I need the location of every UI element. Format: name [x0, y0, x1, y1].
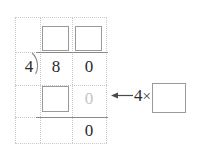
worksheet-canvas: 4 8 0 0 0 4×: [0, 0, 198, 159]
partial-product-faint-digit: 0: [77, 90, 101, 107]
division-bar: [36, 52, 108, 53]
grid-line-vertical: [106, 17, 107, 143]
grid-line-vertical: [15, 17, 16, 143]
multiplier-value: 4: [134, 86, 143, 105]
grid-line-vertical: [40, 17, 41, 143]
remainder-digit: 0: [77, 122, 101, 139]
multiplier-answer-box[interactable]: [152, 83, 186, 113]
grid-line-horizontal: [15, 17, 107, 18]
partial-product-box[interactable]: [42, 86, 69, 112]
dividend-digit-tens: 8: [44, 58, 68, 75]
grid-line-vertical: [72, 17, 73, 143]
quotient-box-ones[interactable]: [75, 26, 102, 51]
divisor-digit: 4: [17, 58, 41, 75]
grid-line-horizontal: [15, 143, 107, 144]
left-arrow-icon: [110, 90, 134, 101]
times-symbol: ×: [143, 88, 151, 104]
multiplier-label: 4×: [134, 87, 151, 104]
quotient-box-tens[interactable]: [42, 26, 69, 51]
subtraction-line: [36, 117, 108, 118]
dividend-digit-ones: 0: [77, 58, 101, 75]
